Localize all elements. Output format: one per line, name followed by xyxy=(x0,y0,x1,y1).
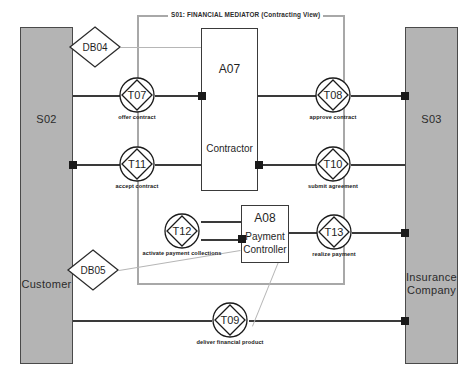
actor-name-s03: InsuranceCompany xyxy=(406,271,457,297)
link-t12-a08-lower xyxy=(201,239,241,241)
link-t13-s03 xyxy=(352,232,405,234)
role-name-a08-line2: Controller xyxy=(242,243,288,256)
role-id-a07: A07 xyxy=(202,62,257,76)
link-t08-s03 xyxy=(351,95,405,97)
transaction-caption-t09: deliver financial product xyxy=(196,339,263,346)
transaction-t08[interactable]: T08 approve contract xyxy=(314,76,352,114)
link-scope-spine-left xyxy=(137,15,139,268)
transaction-t12[interactable]: T12 activate payment collections xyxy=(163,212,201,250)
transaction-caption-t08: approve contract xyxy=(310,114,357,121)
diagram-canvas: S01: FINANCIAL MEDIATOR (Contracting Vie… xyxy=(0,0,476,382)
transaction-symbol-icon xyxy=(118,145,156,183)
link-t09-s03 xyxy=(249,320,405,322)
fact-bank-db05[interactable]: DB05 xyxy=(66,248,120,292)
diamond-icon xyxy=(68,25,122,69)
link-a08-t13 xyxy=(289,232,317,234)
transaction-symbol-icon xyxy=(315,213,353,251)
transaction-t10[interactable]: T10 submit agreement xyxy=(314,145,352,183)
transaction-t07[interactable]: T07 offer contract xyxy=(118,76,156,114)
actor-name-s02: Customer xyxy=(21,278,72,291)
transaction-caption-t07: offer contract xyxy=(118,114,155,121)
initiator-square-t11 xyxy=(69,161,77,169)
transaction-caption-t13: realize payment xyxy=(312,251,355,258)
actor-id-s03: S03 xyxy=(406,113,457,126)
transaction-symbol-icon xyxy=(163,212,201,250)
transaction-symbol-icon xyxy=(314,76,352,114)
initiator-square-t10 xyxy=(255,161,263,169)
transaction-caption-t12: activate payment collections xyxy=(143,250,222,257)
diamond-icon xyxy=(66,248,120,292)
link-s02-t07 xyxy=(73,95,120,97)
transaction-t11[interactable]: T11 accept contract xyxy=(118,145,156,183)
role-id-a08: A08 xyxy=(242,211,288,225)
transaction-caption-t11: accept contract xyxy=(116,183,159,190)
transaction-symbol-icon xyxy=(211,301,249,339)
role-name-a08-line1: Payment xyxy=(242,230,288,243)
initiator-square-t13 xyxy=(401,229,409,237)
transaction-t09[interactable]: T09 deliver financial product xyxy=(211,301,249,339)
role-box-a08[interactable]: A08 Payment Controller xyxy=(241,205,289,263)
transaction-symbol-icon xyxy=(314,145,352,183)
transaction-symbol-icon xyxy=(118,76,156,114)
actor-box-s03[interactable]: S03 InsuranceCompany xyxy=(405,27,458,364)
fact-bank-db04[interactable]: DB04 xyxy=(68,25,122,69)
initiator-square-t09 xyxy=(401,317,409,325)
transaction-t13[interactable]: T13 realize payment xyxy=(315,213,353,251)
link-a07-t10 xyxy=(258,164,316,166)
link-s02-t11 xyxy=(73,164,120,166)
initiator-square-t07 xyxy=(198,92,206,100)
actor-id-s02: S02 xyxy=(21,113,72,126)
link-t10-s03 xyxy=(351,164,405,166)
initiator-square-t12 xyxy=(238,235,246,243)
link-a07-t08 xyxy=(258,95,316,97)
link-db04-a07 xyxy=(121,47,207,48)
role-box-a07[interactable]: A07 Contractor xyxy=(201,28,258,191)
initiator-square-t08 xyxy=(401,92,409,100)
link-t12-a08-upper xyxy=(201,221,241,223)
link-t11-a07 xyxy=(155,164,207,166)
role-name-a07: Contractor xyxy=(202,142,257,155)
actor-box-s02[interactable]: S02 Customer xyxy=(20,27,73,364)
transaction-caption-t10: submit agreement xyxy=(308,183,358,190)
actor-name-s03-line1: InsuranceCompany xyxy=(406,271,457,296)
scope-title: S01: FINANCIAL MEDIATOR (Contracting Vie… xyxy=(168,11,323,19)
